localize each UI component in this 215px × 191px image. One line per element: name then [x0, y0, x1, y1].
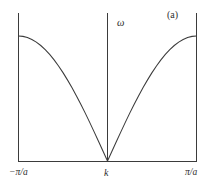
x-axis-label-k: k: [104, 168, 108, 178]
plot-canvas: [0, 0, 215, 191]
dispersion-figure: −π/a k π/a ω (a): [0, 0, 215, 191]
x-axis-min-tick-label: −π/a: [9, 168, 28, 178]
x-axis-max-tick-label: π/a: [185, 168, 197, 178]
panel-label: (a): [167, 10, 178, 20]
y-axis-label-omega: ω: [117, 18, 124, 29]
